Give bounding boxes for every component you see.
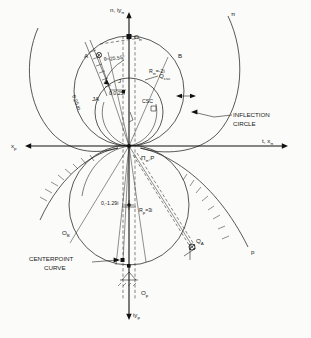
label-centerpoint-curve-1: CENTERPOINT — [29, 255, 74, 262]
label-inflection-circle-2: CIRCLE — [233, 120, 256, 127]
Op-marker — [127, 264, 131, 268]
label-point-J: J — [118, 77, 121, 84]
kinematics-diagram: n, iyπ t, xπ xp iyp π p A B Oπ Op OB QA … — [0, 0, 311, 338]
diagram-background — [0, 0, 311, 338]
label-pi-curve: π — [231, 10, 235, 17]
label-point-B: B — [178, 52, 182, 59]
label-csc: CSC — [142, 98, 153, 104]
centerpoint-arrow-target — [121, 258, 125, 262]
origin-marker — [127, 144, 131, 148]
label-coord-J: 0,0.25i — [109, 90, 125, 96]
label-centerpoint-curve-2: CURVE — [44, 264, 66, 271]
label-inflection-circle-1: INFLECTION — [233, 111, 270, 118]
Opi-marker — [127, 34, 132, 39]
label-coord-OB: 0,-1.29i — [101, 200, 118, 206]
label-p-curve: p — [251, 248, 255, 255]
label-point-JA: JA — [92, 95, 100, 102]
